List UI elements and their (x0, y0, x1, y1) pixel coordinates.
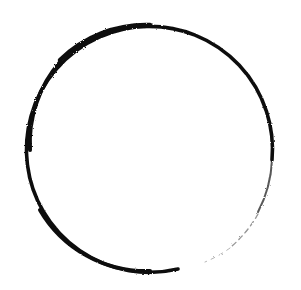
canvas (0, 0, 301, 290)
brush-circle-icon (0, 0, 301, 290)
